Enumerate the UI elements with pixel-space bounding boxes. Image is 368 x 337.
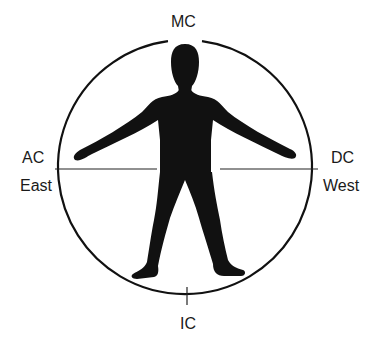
label-east: East (20, 178, 52, 194)
horoscope-diagram (0, 0, 368, 337)
label-west: West (323, 178, 359, 194)
label-ic: IC (180, 316, 196, 332)
human-silhouette (74, 44, 296, 279)
label-dc: DC (331, 150, 354, 166)
label-mc: MC (171, 14, 196, 30)
label-ac: AC (22, 150, 44, 166)
